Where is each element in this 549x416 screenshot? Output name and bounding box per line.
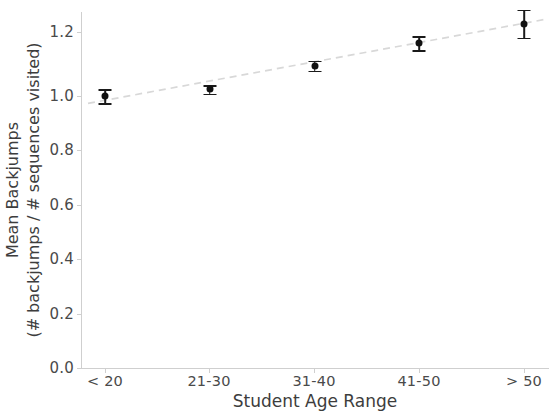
- error-bar-cap: [308, 71, 321, 73]
- y-tick-mark: [77, 96, 81, 97]
- y-axis-spine: [81, 12, 82, 369]
- error-bar-cap: [99, 103, 112, 105]
- y-tick-label: 0.6: [50, 196, 74, 214]
- data-point: [311, 62, 318, 69]
- error-bar-cap: [413, 50, 426, 52]
- y-tick-mark: [77, 205, 81, 206]
- error-bar-cap: [518, 38, 531, 40]
- y-axis-title-line2: (# backjumps / # sequences visited): [23, 42, 44, 337]
- x-tick-label-1: < 20: [87, 373, 123, 389]
- data-point: [416, 40, 423, 47]
- y-tick-mark: [77, 259, 81, 260]
- x-axis-spine: [81, 368, 549, 369]
- y-tick-label: 1.2: [50, 23, 74, 41]
- y-tick-mark: [77, 32, 81, 33]
- data-point: [102, 93, 109, 100]
- error-bar-cap: [413, 36, 426, 38]
- y-tick-label: 0.0: [50, 359, 74, 377]
- x-axis-title: Student Age Range: [81, 391, 549, 411]
- y-tick-label: 0.4: [50, 250, 74, 268]
- y-tick-label: 0.2: [50, 305, 74, 323]
- data-point: [521, 20, 528, 27]
- y-tick-label: 0.8: [50, 141, 74, 159]
- x-tick-label-5: > 50: [506, 373, 542, 389]
- y-tick-mark: [77, 368, 81, 369]
- error-bar-cap: [99, 89, 112, 91]
- y-tick-label: 1.0: [50, 87, 74, 105]
- error-bar-cap: [518, 10, 531, 12]
- x-tick-label-2: 21-30: [187, 373, 230, 389]
- data-point: [206, 86, 213, 93]
- y-tick-mark: [77, 150, 81, 151]
- chart-figure: Mean Backjumps (# backjumps / # sequence…: [0, 0, 549, 416]
- x-tick-label-3: 31-40: [292, 373, 335, 389]
- y-tick-mark: [77, 314, 81, 315]
- error-bar-cap: [203, 94, 216, 96]
- y-axis-title-line1: Mean Backjumps: [2, 42, 23, 337]
- trend-line: [0, 0, 549, 416]
- x-tick-label-4: 41-50: [397, 373, 440, 389]
- y-axis-title: Mean Backjumps (# backjumps / # sequence…: [0, 0, 46, 380]
